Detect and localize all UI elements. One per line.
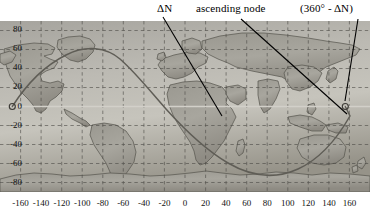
map-canvas — [0, 21, 370, 192]
y-tick-20: 20 — [0, 82, 22, 91]
figure-root: ΔN ascending node (360° - ΔN) — [0, 0, 378, 215]
y-tick-0: 0 — [0, 102, 22, 111]
world-map-plot — [0, 21, 370, 192]
y-tick-neg80: -80 — [0, 178, 22, 187]
ascending-node-label: ascending node — [196, 2, 266, 14]
y-tick-60: 60 — [0, 44, 22, 53]
y-tick-neg60: -60 — [0, 159, 22, 168]
y-tick-neg20: -20 — [0, 121, 22, 130]
threesixty-minus-delta-n-label: (360° - ΔN) — [300, 2, 353, 14]
delta-n-label: ΔN — [157, 2, 172, 14]
x-tick-160: 160 — [335, 199, 363, 208]
y-tick-40: 40 — [0, 63, 22, 72]
y-tick-80: 80 — [0, 25, 22, 34]
y-tick-neg40: -40 — [0, 140, 22, 149]
